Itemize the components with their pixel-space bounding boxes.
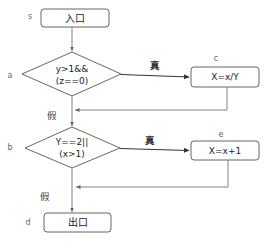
- decision-diamond-a: [22, 52, 121, 96]
- entry-text: 入口: [65, 13, 85, 24]
- edge-a-true-label: 真: [150, 60, 160, 71]
- node-b-decision: b Y==2|| (x>1): [7, 127, 120, 168]
- decision-a-line1: y>1&&: [56, 64, 89, 74]
- edge-a-true: [121, 75, 189, 78]
- process-c-text: X=x/Y: [211, 72, 239, 82]
- edge-b-false-label: 假: [40, 191, 50, 202]
- decision-b-line1: Y==2||: [55, 137, 88, 147]
- node-s-entry: s 入口: [28, 9, 109, 27]
- decision-b-line2: (x>1): [59, 149, 85, 159]
- node-label-b: b: [7, 143, 12, 152]
- exit-text: 出口: [68, 216, 88, 228]
- node-label-d: d: [25, 218, 30, 227]
- edge-e-return: [76, 160, 228, 187]
- node-label-a: a: [8, 71, 13, 80]
- process-e-text: X=x+1: [209, 146, 241, 156]
- node-a-decision: a y>1&& (z==0): [8, 52, 121, 96]
- node-label-s: s: [28, 12, 32, 21]
- edge-b-true-label: 真: [145, 135, 155, 146]
- decision-a-line2: (z==0): [56, 76, 89, 86]
- flowchart-canvas: s 入口 a y>1&& (z==0) 真 c X=x/Y 假 b Y==2||…: [0, 0, 266, 243]
- node-label-e: e: [219, 130, 224, 139]
- decision-diamond-b: [25, 127, 120, 168]
- node-d-exit: d 出口: [25, 213, 111, 232]
- edge-c-return: [75, 87, 227, 110]
- edge-b-true: [120, 149, 189, 151]
- node-c-process: c X=x/Y: [191, 54, 259, 88]
- edge-a-false-label: 假: [47, 110, 57, 121]
- node-label-c: c: [214, 54, 218, 63]
- node-e-process: e X=x+1: [191, 130, 259, 161]
